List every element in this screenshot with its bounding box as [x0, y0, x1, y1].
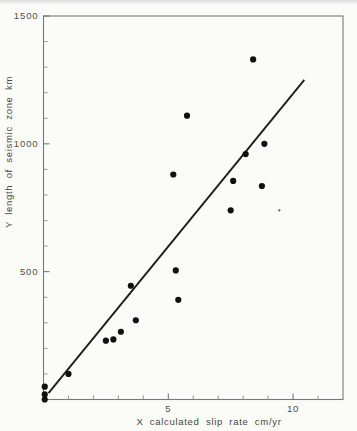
data-points — [42, 56, 281, 402]
data-point — [250, 56, 256, 62]
scatter-chart: 510 50010001500 X calculated slip rate c… — [0, 0, 357, 431]
data-point — [243, 151, 249, 157]
data-point — [184, 113, 190, 119]
data-point — [173, 267, 179, 273]
x-axis: 510 — [68, 394, 318, 414]
data-point — [42, 384, 48, 390]
data-point — [259, 183, 265, 189]
fit-line — [48, 80, 304, 393]
small-mark — [278, 209, 280, 211]
y-axis-title: Y length of seismic zone km — [3, 76, 14, 228]
plot-border — [44, 16, 344, 400]
plot-frame — [44, 16, 344, 400]
scatter-plot-figure: 510 50010001500 X calculated slip rate c… — [0, 0, 357, 431]
data-point — [103, 338, 109, 344]
y-tick-label: 1000 — [14, 138, 39, 149]
y-axis: 50010001500 — [14, 10, 50, 374]
data-point — [110, 336, 116, 342]
regression-line — [48, 80, 304, 393]
x-tick-label: 5 — [165, 403, 171, 414]
y-tick-label: 500 — [20, 266, 39, 277]
x-axis-title: X calculated slip rate cm/yr — [136, 416, 281, 427]
data-point — [42, 391, 48, 397]
data-point — [170, 171, 176, 177]
data-point — [133, 317, 139, 323]
x-tick-label: 10 — [287, 403, 299, 414]
data-point — [175, 297, 181, 303]
data-point — [65, 371, 71, 377]
data-point — [128, 283, 134, 289]
data-point — [230, 178, 236, 184]
data-point — [228, 207, 234, 213]
y-tick-label: 1500 — [14, 10, 39, 21]
data-point — [118, 329, 124, 335]
data-point — [261, 141, 267, 147]
